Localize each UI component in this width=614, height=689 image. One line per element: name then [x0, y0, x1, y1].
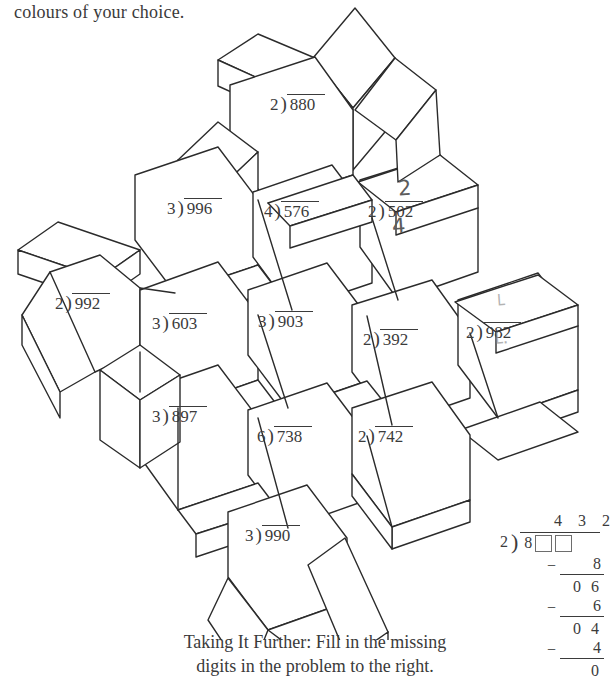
pencil-mark-502-quotient: 2: [397, 178, 412, 200]
taking-it-further-line1: Taking It Further: Fill in the missing: [184, 632, 447, 652]
long-division-first-digit: 8: [524, 534, 532, 552]
divisor-990: 3: [245, 527, 254, 544]
divisor-880: 2: [270, 96, 279, 113]
divisor-982: 2: [466, 324, 475, 341]
dividend-576: 576: [281, 201, 320, 220]
long-division-step-6: 0: [492, 659, 614, 680]
dividend-897: 897: [169, 406, 208, 425]
divisor-742: 2: [358, 428, 367, 445]
division-problem-996: 3)996: [167, 198, 222, 217]
dividend-742: 742: [375, 426, 414, 445]
divisor-996: 3: [167, 200, 176, 217]
step-value-3: 6: [560, 597, 604, 617]
long-division-bracket: ): [508, 533, 520, 551]
minus-sign-3: −: [547, 599, 556, 617]
division-problem-576: 4)576: [264, 201, 319, 220]
divisor-576: 4: [264, 203, 273, 220]
dividend-392: 392: [380, 329, 419, 348]
step-value-2: 0 6: [558, 578, 604, 596]
long-division-dividend-row: 2 ) 8: [492, 530, 614, 554]
step-value-5: 4: [560, 639, 604, 659]
long-division-step-2: 0 6: [492, 575, 614, 596]
long-division-quotient: 4 3 2: [554, 512, 614, 530]
dividend-990: 990: [262, 525, 301, 544]
dividend-738: 738: [274, 426, 313, 445]
divisor-897: 3: [152, 408, 161, 425]
division-problem-742: 2)742: [358, 426, 413, 445]
divisor-903: 3: [258, 313, 267, 330]
long-division-step-5: − 4: [492, 638, 614, 659]
answer-blank-box-2[interactable]: [555, 535, 572, 552]
step-value-6: 0: [558, 662, 604, 680]
pencil-mark-502-work: 4: [391, 216, 406, 238]
long-division-quotient-row: 4 3 2: [492, 508, 614, 530]
dividend-603: 603: [169, 313, 208, 332]
division-problem-392: 2)392: [363, 329, 418, 348]
divisor-392: 2: [363, 331, 372, 348]
long-division-problem: 4 3 2 2 ) 8 − 8 0 6 − 6 0 4 − 4 0: [492, 508, 614, 680]
minus-sign-1: −: [547, 557, 556, 575]
minus-sign-5: −: [547, 641, 556, 659]
division-problem-903: 3)903: [258, 311, 313, 330]
pencil-mark-982-above: └: [493, 296, 505, 315]
step-value-4: 0 4: [558, 620, 604, 638]
long-division-divisor: 2: [492, 533, 508, 551]
step-value-1: 8: [560, 555, 604, 575]
dividend-903: 903: [275, 311, 314, 330]
division-problem-880: 2)880: [270, 94, 325, 113]
divisor-502: 2: [368, 203, 377, 220]
division-problem-990: 3)990: [245, 525, 300, 544]
pencil-mark-982-below: └·: [491, 333, 509, 352]
dividend-996: 996: [184, 198, 223, 217]
divisor-603: 3: [152, 315, 161, 332]
long-division-step-3: − 6: [492, 596, 614, 617]
division-problem-897: 3)897: [152, 406, 207, 425]
division-problem-603: 3)603: [152, 313, 207, 332]
division-problem-992: 2)992: [55, 293, 110, 312]
long-division-step-1: − 8: [492, 554, 614, 575]
long-division-dividend: 8: [520, 532, 600, 552]
taking-it-further-caption: Taking It Further: Fill in the missing d…: [150, 630, 480, 679]
answer-blank-box-1[interactable]: [535, 535, 552, 552]
dividend-880: 880: [287, 94, 326, 113]
taking-it-further-line2: digits in the problem to the right.: [150, 654, 480, 678]
dividend-992: 992: [72, 293, 111, 312]
long-division-step-4: 0 4: [492, 617, 614, 638]
divisor-992: 2: [55, 295, 64, 312]
division-problem-738: 6)738: [257, 426, 312, 445]
divisor-738: 6: [257, 428, 266, 445]
